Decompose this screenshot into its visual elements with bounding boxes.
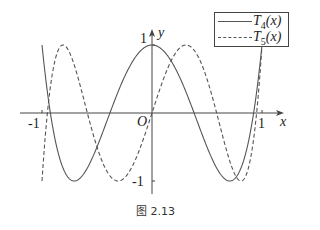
x-tick-label-1: 1 — [258, 117, 265, 131]
legend: T4(x) T5(x) — [214, 12, 289, 47]
y-tick-label-1: 1 — [140, 32, 147, 46]
legend-item-t4: T4(x) — [215, 13, 288, 29]
legend-solid-line-icon — [218, 21, 252, 22]
origin-label: O — [137, 115, 147, 129]
y-tick-label-neg1: -1 — [132, 175, 144, 189]
legend-dashed-line-icon — [218, 37, 252, 38]
legend-item-t5: T5(x) — [215, 29, 288, 45]
figure-caption: 图 2.13 — [136, 202, 175, 218]
x-axis-label: x — [280, 115, 286, 129]
x-tick-label-neg1: -1 — [28, 117, 40, 131]
legend-label-t5: T5(x) — [253, 29, 281, 47]
y-axis-label: y — [158, 26, 164, 40]
